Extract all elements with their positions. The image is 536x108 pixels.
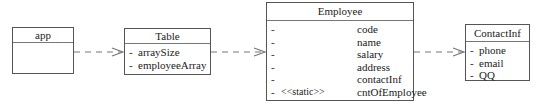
attribute-row: - QQ: [470, 69, 525, 82]
attribute-name: cntOfEmployee: [357, 86, 427, 99]
attribute-name: salary: [357, 48, 409, 61]
visibility-marker: -: [271, 36, 281, 49]
attribute-name: QQ: [479, 69, 495, 82]
attribute-row: - email: [470, 57, 525, 70]
attribute-name: contactInf: [357, 73, 409, 86]
visibility-marker: -: [129, 46, 138, 59]
attribute-row: - name: [271, 36, 409, 49]
visibility-marker: -: [271, 86, 281, 99]
attribute-row: - <<static>> cntOfEmployee: [271, 86, 409, 99]
class-name: Employee: [267, 3, 413, 21]
class-attributes: - code - name - salary - address - conta…: [267, 21, 413, 101]
visibility-marker: -: [271, 61, 281, 74]
class-name: app: [13, 28, 73, 43]
visibility-marker: -: [271, 23, 281, 36]
visibility-marker: -: [470, 69, 479, 82]
class-attributes: [13, 43, 73, 47]
attribute-name: email: [479, 57, 503, 70]
stereotype: <<static>>: [281, 86, 357, 99]
class-table[interactable]: Table - arraySize - employeeArray: [124, 28, 211, 75]
class-attributes: - arraySize - employeeArray: [125, 44, 210, 73]
attribute-row: - salary: [271, 48, 409, 61]
attribute-name: code: [357, 23, 409, 36]
stereotype: [281, 36, 357, 49]
class-employee[interactable]: Employee - code - name - salary - addres…: [266, 2, 414, 101]
attribute-row: - employeeArray: [129, 59, 206, 72]
attribute-name: name: [357, 36, 409, 49]
class-contactinf[interactable]: ContactInf - phone - email - QQ: [465, 24, 530, 81]
visibility-marker: -: [271, 73, 281, 86]
attribute-name: arraySize: [138, 46, 180, 59]
attribute-row: - contactInf: [271, 73, 409, 86]
attribute-row: - arraySize: [129, 46, 206, 59]
stereotype: [281, 48, 357, 61]
attribute-name: employeeArray: [138, 59, 206, 72]
attribute-row: - code: [271, 23, 409, 36]
visibility-marker: -: [470, 44, 479, 57]
stereotype: [281, 61, 357, 74]
stereotype: [281, 23, 357, 36]
class-name: ContactInf: [466, 25, 529, 42]
stereotype: [281, 73, 357, 86]
class-name: Table: [125, 29, 210, 44]
attribute-name: address: [357, 61, 409, 74]
class-attributes: - phone - email - QQ: [466, 42, 529, 84]
attribute-row: - address: [271, 61, 409, 74]
class-app[interactable]: app: [12, 27, 74, 74]
visibility-marker: -: [271, 48, 281, 61]
visibility-marker: -: [470, 57, 479, 70]
attribute-row: - phone: [470, 44, 525, 57]
attribute-name: phone: [479, 44, 506, 57]
visibility-marker: -: [129, 59, 138, 72]
